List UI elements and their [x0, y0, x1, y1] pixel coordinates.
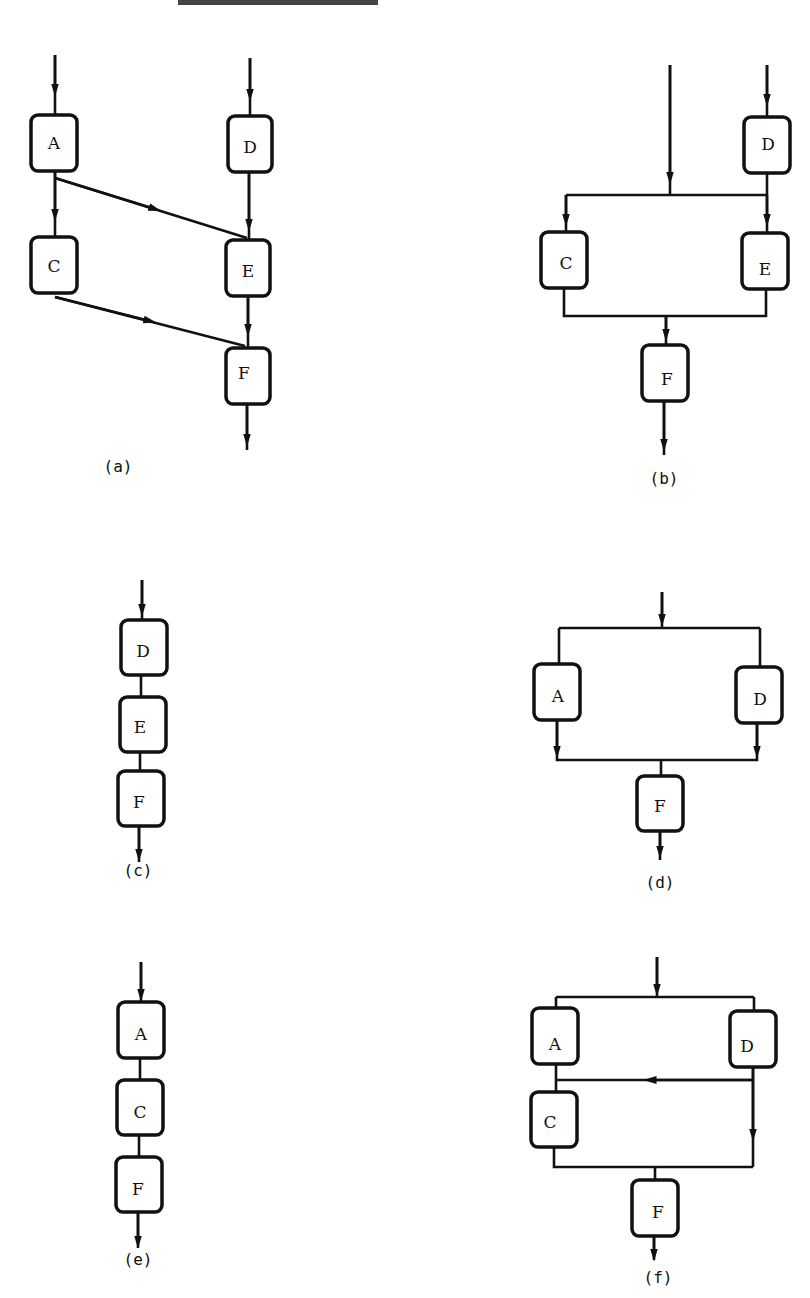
node-d-A: A	[534, 664, 580, 720]
node-a-F: F	[226, 348, 270, 404]
svg-text:F: F	[238, 363, 250, 383]
node-e-C: C	[117, 1080, 163, 1135]
svg-text:C: C	[133, 1102, 146, 1122]
caption-a: (a)	[104, 457, 133, 476]
node-c-E: E	[120, 697, 166, 752]
panel-a: A C D E F (a)	[31, 55, 272, 476]
svg-text:C: C	[543, 1112, 556, 1132]
svg-text:F: F	[654, 796, 666, 816]
panel-d: A D F (d)	[534, 592, 782, 892]
caption-e: (e)	[124, 1250, 153, 1269]
node-a-A: A	[31, 115, 77, 171]
node-f-D: D	[730, 1011, 776, 1067]
node-b-F: F	[642, 345, 688, 401]
panel-e: A C F (e)	[116, 962, 164, 1269]
node-a-E: E	[226, 240, 270, 296]
node-f-C: C	[531, 1092, 577, 1147]
flow-diagrams: A C D E F (a) D C E F (b) D E F	[0, 0, 810, 1298]
svg-text:C: C	[559, 253, 572, 273]
caption-c: (c)	[124, 861, 153, 880]
node-c-D: D	[121, 620, 167, 675]
svg-text:F: F	[661, 369, 673, 389]
panel-f: A D C F (f)	[531, 957, 776, 1287]
svg-text:D: D	[740, 1036, 754, 1056]
svg-text:D: D	[243, 137, 257, 157]
svg-text:E: E	[134, 717, 146, 737]
node-b-C: C	[541, 232, 587, 288]
svg-text:C: C	[47, 256, 60, 276]
svg-text:A: A	[551, 686, 565, 706]
caption-b: (b)	[650, 469, 679, 488]
svg-text:A: A	[548, 1034, 562, 1054]
svg-text:E: E	[242, 261, 254, 281]
caption-d: (d)	[646, 873, 675, 892]
svg-text:F: F	[652, 1202, 664, 1222]
node-a-C: C	[31, 237, 77, 293]
node-d-F: F	[637, 776, 683, 831]
node-c-F: F	[118, 771, 164, 826]
node-b-E: E	[742, 233, 788, 289]
node-d-D: D	[736, 667, 782, 723]
svg-text:D: D	[753, 689, 767, 709]
svg-text:A: A	[47, 133, 61, 153]
node-e-F: F	[116, 1157, 162, 1212]
svg-text:F: F	[133, 792, 145, 812]
svg-text:F: F	[132, 1179, 144, 1199]
caption-f: (f)	[644, 1268, 673, 1287]
node-b-D: D	[744, 117, 790, 173]
panel-c: D E F (c)	[118, 580, 167, 880]
svg-text:D: D	[761, 134, 775, 154]
node-e-A: A	[118, 1002, 164, 1058]
node-f-F: F	[632, 1180, 678, 1236]
node-a-D: D	[228, 116, 272, 172]
svg-text:E: E	[759, 259, 771, 279]
panel-b: D C E F (b)	[541, 65, 790, 488]
svg-text:D: D	[136, 641, 150, 661]
svg-text:A: A	[134, 1024, 148, 1044]
node-f-A: A	[532, 1008, 578, 1064]
